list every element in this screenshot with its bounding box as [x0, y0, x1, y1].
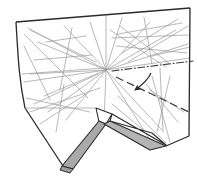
origami-figure-container: Origami folding step diagram Quadrilater…	[0, 0, 197, 181]
origami-diagram: Origami folding step diagram Quadrilater…	[0, 0, 197, 181]
